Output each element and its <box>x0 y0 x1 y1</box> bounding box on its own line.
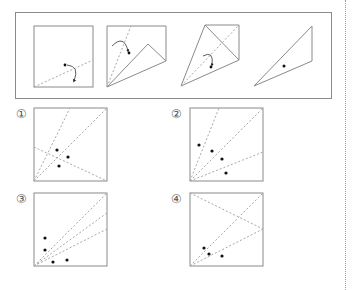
step-1-figure <box>34 26 93 87</box>
fold-arrow-icon <box>67 65 76 81</box>
hole-dot <box>283 65 286 68</box>
step-3-figure <box>181 25 239 86</box>
option-3-figure[interactable] <box>34 193 107 266</box>
hole-dot <box>64 64 67 67</box>
option-2-figure[interactable] <box>190 108 263 181</box>
fold-arrow-icon <box>112 41 128 51</box>
option-4-figure[interactable] <box>190 193 263 266</box>
option-3-label[interactable]: ③ <box>16 192 27 206</box>
option-4-label[interactable]: ④ <box>171 192 182 206</box>
option-1-label[interactable]: ① <box>16 107 27 121</box>
step-2-figure <box>107 26 166 87</box>
fold-arrow-icon <box>203 54 212 65</box>
hole-dot <box>210 66 213 69</box>
option-2-label[interactable]: ② <box>171 107 182 121</box>
diagram-canvas <box>0 0 354 290</box>
step-4-figure <box>254 26 312 86</box>
hole-dot <box>128 52 131 55</box>
option-1-figure[interactable] <box>34 108 107 181</box>
